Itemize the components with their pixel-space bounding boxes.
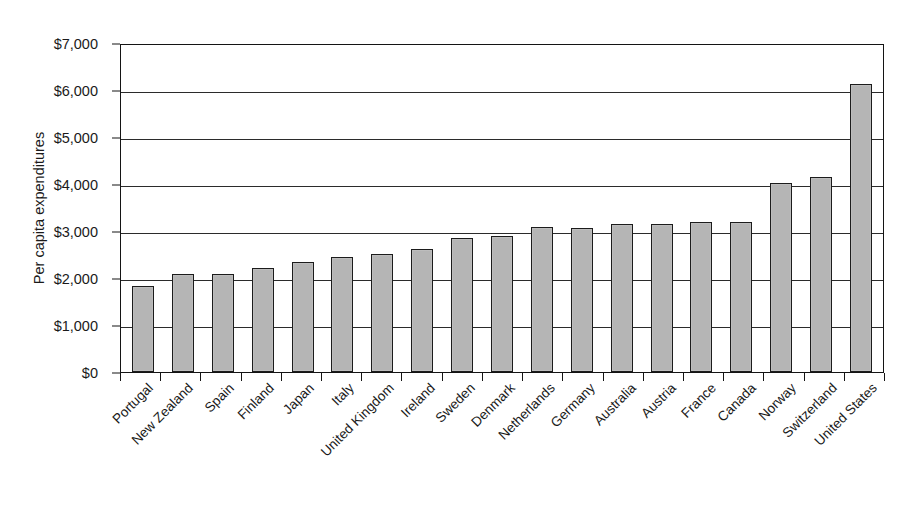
bar[interactable]	[371, 254, 393, 372]
x-axis-tick-label: Canada	[716, 381, 760, 425]
x-axis-tick	[884, 373, 885, 381]
bar-slot	[362, 45, 402, 372]
bar-slot	[402, 45, 442, 372]
y-axis-tick	[112, 232, 120, 233]
bar[interactable]	[212, 274, 234, 372]
bar[interactable]	[451, 238, 473, 372]
bar[interactable]	[850, 84, 872, 372]
x-axis-tick-label: France	[679, 381, 719, 421]
x-axis-tick	[120, 373, 121, 381]
bar[interactable]	[252, 268, 274, 372]
bar-slot	[721, 45, 761, 372]
x-axis-tick	[160, 373, 161, 381]
x-axis-tick-label: Japan	[281, 381, 317, 417]
x-axis-tick	[763, 373, 764, 381]
x-axis-labels: PortugalNew ZealandSpainFinlandJapanItal…	[120, 381, 884, 517]
bar-slot	[602, 45, 642, 372]
y-axis-tick-label: $3,000	[54, 224, 98, 240]
bar-slot	[681, 45, 721, 372]
x-axis-tick-label: United Kingdom	[319, 381, 397, 459]
x-axis-tick	[482, 373, 483, 381]
bar[interactable]	[611, 224, 633, 372]
y-axis-tick	[112, 138, 120, 139]
bar-slot	[562, 45, 602, 372]
x-axis-tick-label: Italy	[330, 381, 358, 409]
y-axis-tick	[112, 185, 120, 186]
y-axis-tick-label: $0	[82, 365, 98, 381]
bar-slot	[482, 45, 522, 372]
y-axis-tick	[112, 91, 120, 92]
bar[interactable]	[571, 228, 593, 372]
bar[interactable]	[491, 236, 513, 372]
y-axis-tick-label: $1,000	[54, 318, 98, 334]
x-axis-tick-label: Australia	[591, 381, 638, 428]
x-axis-tick	[804, 373, 805, 381]
y-axis-tick-label: $4,000	[54, 177, 98, 193]
bar-slot	[841, 45, 881, 372]
bar-slot	[283, 45, 323, 372]
x-axis-tick	[603, 373, 604, 381]
x-axis-tick-label: Austria	[639, 381, 679, 421]
bar-slot	[203, 45, 243, 372]
x-axis-tick-label: Finland	[235, 381, 277, 423]
x-axis-tick	[522, 373, 523, 381]
bar-series	[121, 45, 883, 372]
bar[interactable]	[132, 286, 154, 372]
y-axis-labels: $7,000$6,000$5,000$4,000$3,000$2,000$1,0…	[0, 44, 112, 373]
y-axis-tick-label: $6,000	[54, 83, 98, 99]
bar-slot	[522, 45, 562, 372]
x-axis-tick	[241, 373, 242, 381]
x-axis-tick	[683, 373, 684, 381]
y-axis-tick	[112, 279, 120, 280]
y-axis-tick	[112, 44, 120, 45]
bar-chart: Per capita expenditures $7,000$6,000$5,0…	[0, 0, 907, 517]
bar[interactable]	[651, 224, 673, 372]
x-axis-tick	[361, 373, 362, 381]
y-axis-tick-label: $5,000	[54, 130, 98, 146]
x-axis-tick	[321, 373, 322, 381]
bar-slot	[642, 45, 682, 372]
x-axis-tick	[844, 373, 845, 381]
y-axis-tick-label: $2,000	[54, 271, 98, 287]
bar-slot	[761, 45, 801, 372]
bar-slot	[442, 45, 482, 372]
x-axis-tick	[562, 373, 563, 381]
x-axis-tick	[281, 373, 282, 381]
y-axis-tick-label: $7,000	[54, 36, 98, 52]
bar[interactable]	[292, 262, 314, 372]
bar-slot	[322, 45, 362, 372]
x-axis-tick-label: Spain	[202, 381, 237, 416]
y-axis-tick	[112, 373, 120, 374]
bar-slot	[801, 45, 841, 372]
bar-slot	[123, 45, 163, 372]
y-axis-tick	[112, 326, 120, 327]
x-axis-tick	[723, 373, 724, 381]
x-axis-tick	[442, 373, 443, 381]
bar[interactable]	[331, 257, 353, 372]
bar[interactable]	[690, 222, 712, 372]
plot-area	[120, 44, 884, 373]
bar[interactable]	[172, 274, 194, 372]
x-axis-tick	[643, 373, 644, 381]
bar-slot	[243, 45, 283, 372]
bar[interactable]	[770, 183, 792, 372]
bar[interactable]	[531, 227, 553, 372]
bar-slot	[163, 45, 203, 372]
x-axis-tick	[200, 373, 201, 381]
bar[interactable]	[730, 222, 752, 372]
bar[interactable]	[810, 177, 832, 372]
bar[interactable]	[411, 249, 433, 372]
x-axis-tick	[401, 373, 402, 381]
